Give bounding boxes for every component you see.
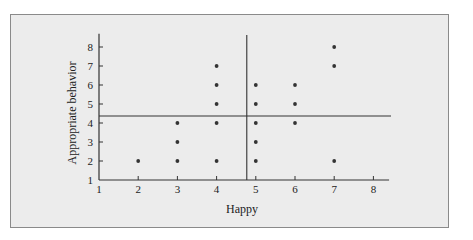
data-point (254, 102, 258, 106)
data-point (332, 64, 336, 68)
x-tick-label: 1 (96, 183, 102, 195)
data-point (293, 83, 297, 87)
data-point (176, 159, 180, 163)
y-tick-label: 5 (88, 98, 94, 110)
y-tick-label: 3 (88, 136, 94, 148)
y-tick-label: 6 (88, 79, 94, 91)
data-point (215, 159, 219, 163)
data-point (215, 64, 219, 68)
data-point (293, 102, 297, 106)
data-point (215, 121, 219, 125)
data-point (136, 159, 140, 163)
data-point (254, 140, 258, 144)
y-tick-label: 8 (88, 41, 94, 53)
data-point (176, 140, 180, 144)
y-tick-label: 1 (88, 174, 94, 186)
data-point (215, 102, 219, 106)
data-point (176, 121, 180, 125)
x-tick-label: 7 (331, 183, 337, 195)
x-tick-label: 5 (253, 183, 259, 195)
y-tick-label: 7 (88, 60, 94, 72)
data-point (254, 159, 258, 163)
data-point (332, 45, 336, 49)
x-tick-label: 6 (292, 183, 298, 195)
reference-lines (99, 35, 391, 180)
axes: 1234567812345678 (88, 34, 390, 195)
x-tick-label: 4 (214, 183, 220, 195)
y-tick-label: 4 (88, 117, 94, 129)
scatter-plot: 1234567812345678 Happy Appropriate behav… (0, 0, 473, 240)
x-tick-label: 3 (175, 183, 181, 195)
data-point (293, 121, 297, 125)
x-tick-label: 2 (135, 183, 141, 195)
data-point (215, 83, 219, 87)
data-point (332, 159, 336, 163)
data-point (254, 121, 258, 125)
y-axis-label: Appropriate behavior (65, 62, 79, 165)
x-axis-label: Happy (226, 202, 258, 216)
data-points (136, 45, 336, 163)
y-tick-label: 2 (88, 155, 94, 167)
x-tick-label: 8 (371, 183, 377, 195)
data-point (254, 83, 258, 87)
